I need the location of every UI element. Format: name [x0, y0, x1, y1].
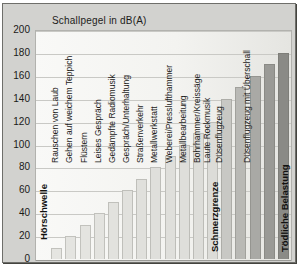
bar	[122, 190, 133, 259]
bar	[150, 167, 161, 259]
y-axis-tick-label: 200	[2, 24, 30, 36]
y-axis-tick-label: 0	[2, 253, 30, 265]
y-axis-tick-label: 160	[2, 70, 30, 82]
bar-label: Laute Rockmusik	[202, 98, 212, 163]
bar	[94, 213, 105, 259]
y-axis-tick-label: 80	[2, 161, 30, 173]
bar-label: Bohrhammer/Kreissäge	[192, 74, 202, 163]
bar-label: Gehen auf weichem Teppich	[64, 56, 74, 163]
gridline	[36, 54, 291, 55]
bar	[65, 236, 76, 259]
y-axis-tick-label: 120	[2, 116, 30, 128]
y-axis-tick-label: 180	[2, 47, 30, 59]
gridline	[36, 31, 291, 32]
y-axis-tick-label: 100	[2, 139, 30, 151]
bar-label: Düsenflugzeug	[214, 106, 224, 163]
bar-label: Gedämpfte Radiomusik	[107, 74, 117, 163]
bar	[80, 225, 91, 259]
gridline	[36, 260, 291, 261]
bar	[108, 202, 119, 259]
y-axis-tick-label: 40	[2, 207, 30, 219]
bar	[51, 248, 62, 259]
bar-label: Rauschen von Laub	[50, 87, 60, 163]
chart-title: Schallpegel in dB(A)	[52, 15, 147, 26]
threshold-label: Tödliche Belastung	[279, 164, 290, 252]
threshold-label: Schmerzgrenze	[209, 182, 220, 252]
bar-label: Flüstern	[79, 132, 89, 163]
bar	[264, 64, 275, 259]
bar-label: Leises Gespräch	[93, 99, 103, 163]
bar	[136, 179, 147, 259]
bar-label: Düsenflugzeug mit Überschall	[242, 50, 252, 163]
bar	[165, 156, 176, 259]
threshold-label: Hörschwelle	[38, 184, 49, 240]
y-axis-tick-label: 60	[2, 184, 30, 196]
sound-level-chart: Schallpegel in dB(A) 0204060801001201401…	[0, 0, 301, 277]
bar-label: Metallbearbeitung	[178, 95, 188, 163]
y-axis-tick-label: 140	[2, 93, 30, 105]
bar-label: Straßenverkehr	[135, 104, 145, 163]
bar-label: Gespräch/Unterhaltung	[121, 75, 131, 163]
bar-label: Metallwerkstatt	[149, 106, 159, 163]
bar-label: Weberei/Presslufthammer	[164, 65, 174, 163]
y-axis-tick-label: 20	[2, 230, 30, 242]
